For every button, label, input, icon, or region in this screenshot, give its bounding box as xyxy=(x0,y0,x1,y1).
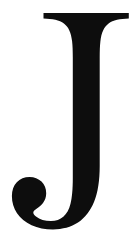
letter-j-glyph: J xyxy=(0,0,138,242)
glyph-canvas: J xyxy=(0,0,138,242)
